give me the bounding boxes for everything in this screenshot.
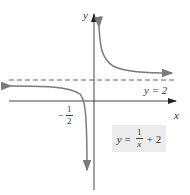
- x-intercept-label: − 1 2: [58, 105, 75, 126]
- asymptote-label: y = 2: [144, 85, 167, 96]
- eq-numerator: 1: [137, 128, 142, 137]
- graph-canvas: [0, 0, 190, 195]
- eq-denominator: x: [137, 140, 141, 149]
- curve-left-branch: [11, 86, 87, 170]
- eq-tail: + 2: [147, 133, 161, 145]
- denominator: 2: [67, 117, 72, 126]
- eq-lhs: y: [117, 133, 122, 145]
- curve-right-branch: [99, 27, 172, 73]
- numerator: 1: [67, 105, 72, 114]
- function-equation-box: y = 1 x + 2: [112, 125, 166, 152]
- x-axis-label: x: [174, 110, 179, 121]
- minus-sign: −: [58, 110, 64, 121]
- y-axis-label: y: [83, 10, 88, 21]
- eq-sign: =: [125, 133, 131, 145]
